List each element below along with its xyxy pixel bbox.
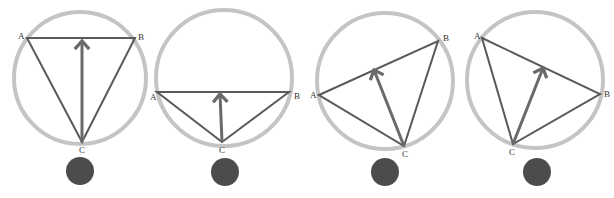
circumcircle	[156, 10, 292, 146]
vertex-label-c: C	[79, 145, 85, 155]
panel-3: ABC	[310, 13, 453, 186]
filled-dot	[211, 158, 239, 186]
circumcircle	[467, 12, 603, 148]
vertex-label-b: B	[138, 32, 144, 42]
vertex-label-a: A	[150, 92, 157, 102]
panel-2: ABC	[150, 10, 300, 186]
filled-dot	[523, 158, 551, 186]
vertex-label-c: C	[402, 149, 408, 159]
filled-dot	[371, 158, 399, 186]
filled-dot	[66, 157, 94, 185]
vertex-label-a: A	[310, 90, 317, 100]
vertex-label-b: B	[604, 89, 610, 99]
circumcircle	[317, 13, 453, 149]
arrow-vector	[220, 94, 222, 142]
circumcircle	[14, 12, 146, 144]
arrow-vector	[513, 68, 543, 144]
panel-1: ABC	[14, 12, 146, 185]
vertex-label-b: B	[294, 91, 300, 101]
vertex-label-b: B	[443, 33, 449, 43]
panel-4: ABC	[467, 12, 610, 186]
vertex-label-c: C	[509, 147, 515, 157]
diagram-canvas: ABCABCABCABC	[0, 0, 614, 198]
vertex-label-a: A	[474, 31, 481, 41]
arrow-vector	[374, 70, 404, 146]
vertex-label-a: A	[18, 31, 25, 41]
vertex-label-c: C	[219, 145, 225, 155]
